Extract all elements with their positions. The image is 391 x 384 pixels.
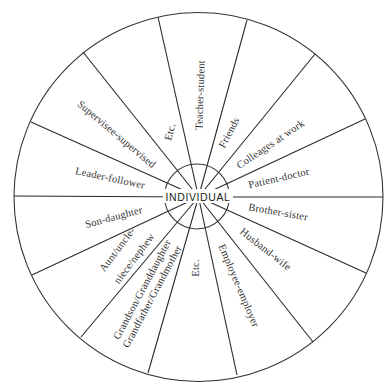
segment-label-teacher-student: Teacher-student <box>193 60 206 130</box>
segment-label-husband-wife: Husband-wife <box>238 226 294 273</box>
center-label: INDIVIDUAL <box>166 191 231 203</box>
segment-label-employee-employer: Employee-employer <box>217 242 262 329</box>
segment-label-etc-bottom: Etc. <box>190 259 201 276</box>
segment-label-supervisee-supervised: Supervisee-supervised <box>75 98 158 170</box>
relationship-wheel-diagram: INDIVIDUAL Teacher-student Friends Colle… <box>0 0 391 384</box>
spoke <box>199 197 238 375</box>
segment-label-son-daughter: Son-daughter <box>84 204 144 230</box>
segment-label-etc-top: Etc. <box>162 122 177 142</box>
segment-label-friends: Friends <box>216 115 241 149</box>
segment-label-brother-sister: Brother-sister <box>248 201 310 222</box>
